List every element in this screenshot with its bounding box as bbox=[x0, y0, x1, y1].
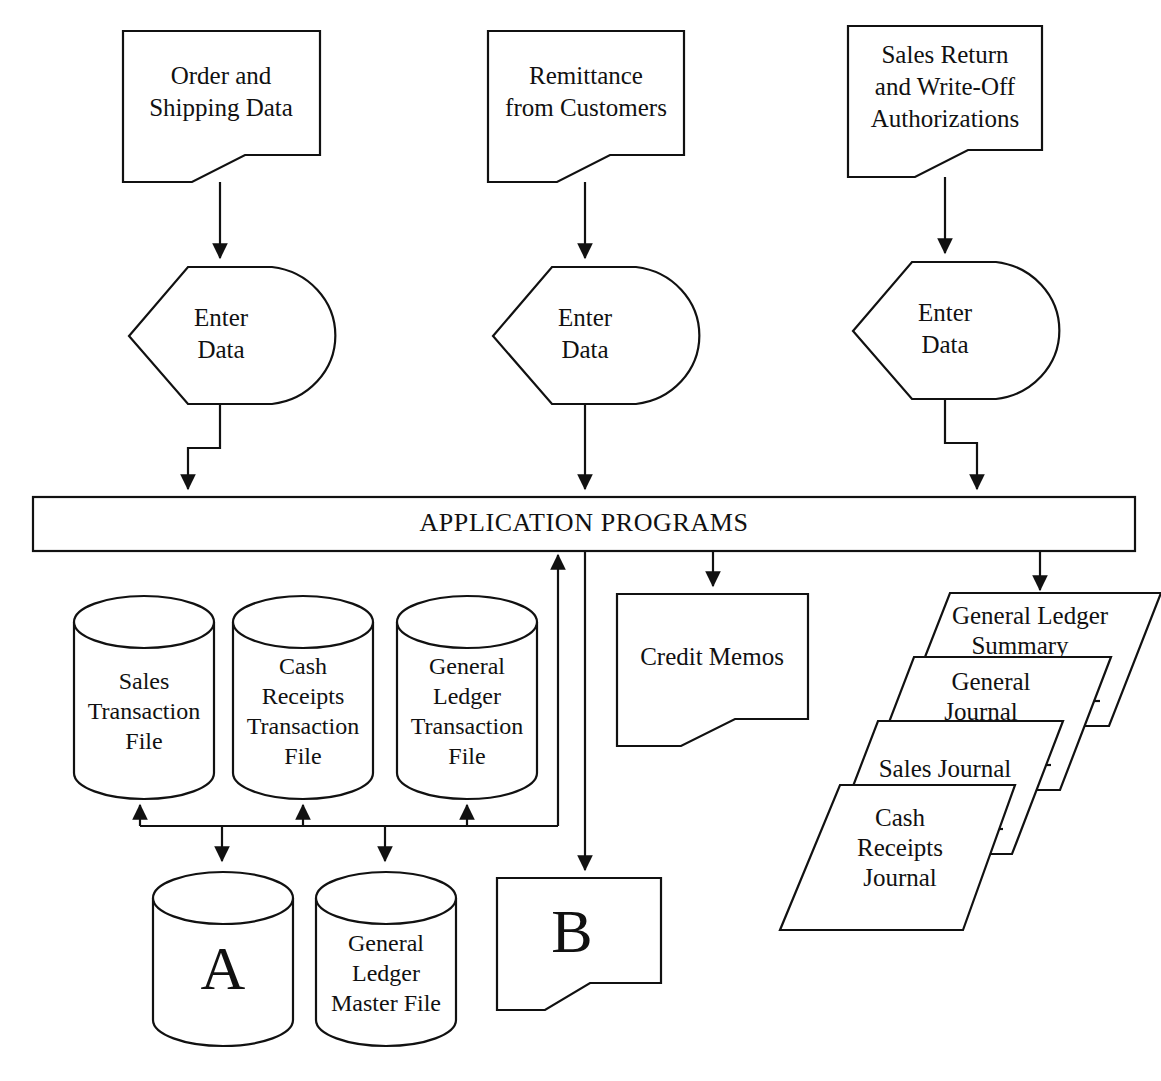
file-line3: Transaction bbox=[411, 713, 523, 739]
file-line3: File bbox=[125, 728, 162, 754]
output-document-credit-memos[interactable]: Credit Memos bbox=[617, 594, 808, 746]
data-store-general-ledger-transaction-file[interactable]: General Ledger Transaction File bbox=[397, 596, 537, 799]
journal-line1: General Ledger bbox=[952, 602, 1109, 629]
cylinder-top bbox=[74, 596, 214, 648]
master-file-line1: General bbox=[348, 930, 424, 956]
data-store-general-ledger-master-file[interactable]: General Ledger Master File bbox=[316, 872, 456, 1046]
process-line2: Data bbox=[197, 336, 244, 363]
credit-memos-label: Credit Memos bbox=[640, 643, 784, 670]
connector-b-label: B bbox=[551, 897, 592, 965]
flowchart-svg: Order and Shipping Data Remittance from … bbox=[0, 0, 1161, 1081]
process-enter-data-2[interactable]: Enter Data bbox=[493, 267, 699, 404]
file-line2: Receipts bbox=[262, 683, 345, 709]
file-line2: Transaction bbox=[88, 698, 200, 724]
input-doc-line1: Order and bbox=[171, 62, 272, 89]
journal-line1: General bbox=[951, 668, 1030, 695]
process-enter-data-1[interactable]: Enter Data bbox=[129, 267, 335, 404]
input-doc-line2: and Write-Off bbox=[875, 73, 1016, 100]
data-store-connector-a[interactable]: A bbox=[153, 872, 293, 1046]
input-doc-line1: Sales Return bbox=[881, 41, 1009, 68]
file-line4: File bbox=[284, 743, 321, 769]
file-line1: General bbox=[429, 653, 505, 679]
input-document-sales-return-writeoff[interactable]: Sales Return and Write-Off Authorization… bbox=[848, 26, 1042, 177]
journal-line1: Sales Journal bbox=[879, 755, 1012, 782]
process-enter-data-3[interactable]: Enter Data bbox=[853, 262, 1059, 399]
file-line1: Cash bbox=[279, 653, 327, 679]
cylinder-top bbox=[153, 872, 293, 924]
process-line2: Data bbox=[561, 336, 608, 363]
process-line1: Enter bbox=[194, 304, 249, 331]
arrow-process1-to-application-bar bbox=[188, 404, 220, 489]
journal-line1: Cash bbox=[875, 804, 926, 831]
file-line4: File bbox=[448, 743, 485, 769]
journal-cash-receipts-journal[interactable]: Cash Receipts Journal bbox=[780, 785, 1015, 930]
cylinder-top bbox=[316, 872, 456, 924]
input-document-order-shipping-data[interactable]: Order and Shipping Data bbox=[123, 31, 320, 182]
master-file-line2: Ledger bbox=[352, 960, 420, 986]
cylinder-top bbox=[397, 596, 537, 648]
input-doc-line3: Authorizations bbox=[871, 105, 1020, 132]
file-line2: Ledger bbox=[433, 683, 501, 709]
journal-line2: Summary bbox=[971, 632, 1069, 659]
cylinder-top bbox=[233, 596, 373, 648]
input-doc-line2: Shipping Data bbox=[149, 94, 293, 121]
document-shape bbox=[617, 594, 808, 746]
process-line1: Enter bbox=[558, 304, 613, 331]
application-programs-bar[interactable]: APPLICATION PROGRAMS bbox=[33, 497, 1135, 551]
journal-line3: Journal bbox=[863, 864, 937, 891]
arrow-process3-to-application-bar bbox=[945, 399, 977, 489]
input-doc-line1: Remittance bbox=[529, 62, 643, 89]
file-line3: Transaction bbox=[247, 713, 359, 739]
journal-line2: Receipts bbox=[857, 834, 943, 861]
process-line1: Enter bbox=[918, 299, 973, 326]
input-doc-line2: from Customers bbox=[505, 94, 667, 121]
data-store-sales-transaction-file[interactable]: Sales Transaction File bbox=[74, 596, 214, 799]
flowchart-canvas: Order and Shipping Data Remittance from … bbox=[0, 0, 1161, 1081]
input-document-remittance-customers[interactable]: Remittance from Customers bbox=[488, 31, 684, 182]
data-store-cash-receipts-transaction-file[interactable]: Cash Receipts Transaction File bbox=[233, 596, 373, 799]
output-document-connector-b[interactable]: B bbox=[497, 878, 661, 1010]
master-file-line3: Master File bbox=[331, 990, 441, 1016]
connector-a-label: A bbox=[201, 934, 246, 1002]
process-line2: Data bbox=[921, 331, 968, 358]
file-line1: Sales bbox=[119, 668, 170, 694]
application-bar-label: APPLICATION PROGRAMS bbox=[419, 508, 748, 537]
